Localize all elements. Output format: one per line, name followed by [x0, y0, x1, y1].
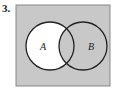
venn-diagram: A B [0, 0, 113, 89]
set-a-label: A [39, 41, 47, 52]
set-b-label: B [88, 41, 94, 52]
